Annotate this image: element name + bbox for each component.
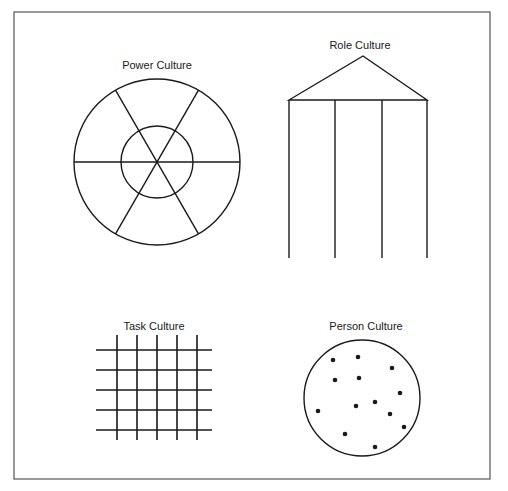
role-culture-temple: Role Culture [289,39,427,258]
individual-dot [356,355,361,360]
power-culture-web: Power Culture [74,59,240,245]
individual-dot [373,400,378,405]
culture-types-diagram: Power Culture Role Culture Task Culture … [0,0,508,491]
individual-dot [373,445,378,450]
role-culture-title: Role Culture [329,39,390,51]
individual-dot [343,432,348,437]
individual-dot [354,404,359,409]
power-culture-title: Power Culture [122,59,192,71]
individual-dot [388,412,393,417]
person-culture-cluster: Person Culture [304,320,420,456]
individual-dot [331,358,336,363]
person-culture-title: Person Culture [329,320,402,332]
task-culture-net: Task Culture [96,320,212,440]
individual-dot [390,366,395,371]
cluster-circle [304,340,420,456]
temple-roof [289,56,427,100]
individual-dot [333,378,338,383]
individual-dot [402,425,407,430]
individual-dot [357,376,362,381]
task-culture-title: Task Culture [123,320,184,332]
individual-dot [398,391,403,396]
individual-dot [316,409,321,414]
